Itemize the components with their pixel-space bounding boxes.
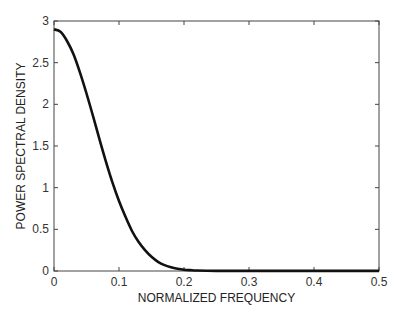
y-tick-label: 1.5 [32,139,49,153]
y-tick-label: 1 [42,181,49,195]
plot-area [54,21,379,271]
y-axis-label: POWER SPECTRAL DENSITY [14,63,28,230]
y-tick-label: 0 [42,264,49,278]
y-tick-label: 3 [42,14,49,28]
x-tick-label: 0.4 [306,275,323,289]
y-tick-label: 2 [42,97,49,111]
x-tick-label: 0.5 [371,275,388,289]
x-axis-label: NORMALIZED FREQUENCY [138,291,295,305]
x-tick-label: 0.2 [176,275,193,289]
psd-chart: 00.10.20.30.40.5 00.511.522.53 NORMALIZE… [0,0,406,316]
x-tick-label: 0 [51,275,58,289]
x-tick-label: 0.1 [111,275,128,289]
y-tick-label: 2.5 [32,56,49,70]
y-tick-label: 0.5 [32,222,49,236]
x-tick-label: 0.3 [241,275,258,289]
